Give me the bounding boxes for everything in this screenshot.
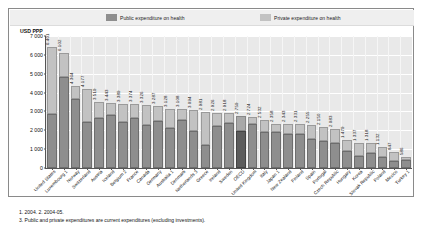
footnote-line: 1. 2004. 2. 2004-05. xyxy=(19,209,419,217)
bar-segment-public xyxy=(401,160,411,168)
y-axis-tick-label: 3 000 xyxy=(30,108,43,114)
bar-value-label: 2 759 xyxy=(234,102,239,114)
bar-segment-public xyxy=(330,143,340,168)
bar-segment-private xyxy=(283,124,293,134)
bar-japan-1[interactable]: 2 358 xyxy=(271,124,281,168)
bar-canada[interactable]: 3 326 xyxy=(142,105,152,168)
bar-finland[interactable]: 2 331 xyxy=(295,124,305,168)
bar-value-label: 1 337 xyxy=(352,129,357,141)
bar-segment-private xyxy=(330,129,340,144)
bar-segment-public xyxy=(153,121,163,169)
legend-swatch-public xyxy=(106,14,117,21)
bar-value-label: 3 287 xyxy=(152,93,157,105)
bar-value-label: 2 532 xyxy=(258,107,263,119)
y-axis-tick-label: 4 000 xyxy=(30,90,43,96)
bar-segment-public xyxy=(106,115,116,168)
footnote-line: 3. Public and private expenditures are c… xyxy=(19,217,419,225)
bar-value-label: 4 364 xyxy=(69,72,74,84)
bar-segment-private xyxy=(354,143,364,156)
bar-segment-private xyxy=(82,89,92,122)
legend-item-public: Public expenditure on health xyxy=(106,13,185,22)
bar-segment-public xyxy=(319,141,329,168)
bar-value-label: 3 108 xyxy=(175,96,180,108)
bar-segment-private xyxy=(224,113,234,123)
bar-series-group: 6 4016 1024 3644 1773 5193 4433 3893 374… xyxy=(46,36,412,168)
bar-segment-private xyxy=(94,102,104,119)
bar-australia-1[interactable]: 3 128 xyxy=(165,109,175,168)
bar-segment-public xyxy=(307,139,317,168)
bar-value-label: 2 331 xyxy=(293,111,298,123)
bar-luxembourg-1[interactable]: 6 102 xyxy=(59,53,69,168)
bar-segment-private xyxy=(271,124,281,133)
bar-korea[interactable]: 1 337 xyxy=(354,143,364,168)
bar-hungary[interactable]: 1 479 xyxy=(342,140,352,168)
bar-sweden[interactable]: 2 918 xyxy=(224,113,234,168)
bar-value-label: 586 xyxy=(399,147,404,155)
bar-greece[interactable]: 2 981 xyxy=(201,112,211,168)
bar-turkey-1[interactable]: 586 xyxy=(401,157,411,168)
legend-label-private: Private expenditure on health xyxy=(274,15,341,21)
bar-segment-public xyxy=(248,124,258,168)
legend-label-public: Public expenditure on health xyxy=(120,15,185,21)
bar-segment-private xyxy=(319,127,329,140)
bar-segment-private xyxy=(71,86,81,99)
bar-segment-public xyxy=(118,122,128,168)
bar-segment-public xyxy=(71,99,81,168)
bar-austria[interactable]: 3 519 xyxy=(94,102,104,168)
y-axis-tick-label: 6 000 xyxy=(30,52,43,58)
bar-netherlands-3[interactable]: 3 094 xyxy=(189,110,199,168)
bar-segment-public xyxy=(271,132,281,168)
bar-united-states[interactable]: 6 401 xyxy=(47,47,57,168)
bar-segment-public xyxy=(295,134,305,168)
x-axis-labels: United StatesLuxembourg 1NorwaySwitzerla… xyxy=(45,169,411,207)
bar-value-label: 4 177 xyxy=(81,76,86,88)
bar-segment-public xyxy=(165,128,175,168)
bar-segment-private xyxy=(201,112,211,145)
bar-value-label: 3 519 xyxy=(93,88,98,100)
bar-oecd[interactable]: 2 759 xyxy=(236,116,246,168)
y-axis-tick-label: 1 000 xyxy=(30,146,43,152)
bar-italy[interactable]: 2 532 xyxy=(260,120,270,168)
bar-segment-public xyxy=(212,126,222,168)
bar-segment-private xyxy=(130,104,140,117)
bar-value-label: 3 389 xyxy=(116,91,121,103)
bar-value-label: 6 102 xyxy=(57,39,62,51)
y-axis-tick-label: 2 000 xyxy=(30,127,43,133)
bar-denmark[interactable]: 3 108 xyxy=(177,109,187,168)
bar-new-zealand[interactable]: 2 343 xyxy=(283,124,293,168)
bar-value-label: 2 926 xyxy=(211,99,216,111)
bar-segment-public xyxy=(201,145,211,168)
plot-area: 01 0002 0003 0004 0005 0006 0007 000 6 4… xyxy=(45,36,412,169)
bar-segment-private xyxy=(260,120,270,132)
bar-ireland[interactable]: 2 926 xyxy=(212,113,222,168)
footnotes: 1. 2004. 2. 2004-05.3. Public and privat… xyxy=(19,209,419,224)
bar-segment-private xyxy=(342,140,352,151)
bar-iceland[interactable]: 3 443 xyxy=(106,103,116,168)
bar-segment-private xyxy=(189,110,199,132)
bar-france[interactable]: 3 374 xyxy=(130,104,140,168)
bar-slovak-republic[interactable]: 1 318 xyxy=(366,143,376,168)
bar-segment-public xyxy=(342,151,352,168)
bar-segment-public xyxy=(47,114,57,168)
bar-segment-private xyxy=(106,103,116,115)
bar-segment-public xyxy=(224,123,234,168)
bar-segment-private xyxy=(307,125,317,138)
bar-czech-republic[interactable]: 2 083 xyxy=(330,129,340,168)
bar-mexico[interactable]: 847 xyxy=(389,152,399,168)
bar-switzerland[interactable]: 4 177 xyxy=(82,89,92,168)
bar-norway[interactable]: 4 364 xyxy=(71,86,81,168)
bar-value-label: 6 401 xyxy=(45,34,50,46)
bar-value-label: 3 128 xyxy=(163,96,168,108)
bar-united-kingdom[interactable]: 2 724 xyxy=(248,117,258,168)
bar-spain[interactable]: 2 255 xyxy=(307,125,317,168)
bar-value-label: 2 150 xyxy=(317,114,322,126)
bar-segment-private xyxy=(366,143,376,153)
bar-germany[interactable]: 3 287 xyxy=(153,106,163,168)
bar-segment-public xyxy=(130,118,140,168)
bar-value-label: 3 443 xyxy=(104,90,109,102)
bar-poland[interactable]: 1 132 xyxy=(378,147,388,168)
bar-segment-private xyxy=(59,53,69,77)
bar-portugal[interactable]: 2 150 xyxy=(319,127,329,168)
bar-belgium-2[interactable]: 3 389 xyxy=(118,104,128,168)
bar-segment-private xyxy=(142,105,152,124)
